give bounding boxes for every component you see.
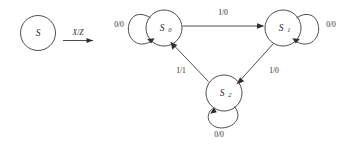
transition-s1-to-s2-group: 1/0 <box>237 44 280 85</box>
state-node-s1[interactable]: S 1 <box>265 10 301 46</box>
state-s1-label: S <box>279 23 284 33</box>
state-diagram-canvas: S X/Z 0/0 0/0 0/0 1/0 <box>0 0 349 146</box>
key-state-label: S <box>36 28 41 38</box>
self-loop-s2-label: 0/0 <box>214 130 224 139</box>
transition-s2-to-s0-label: 1/1 <box>176 66 186 75</box>
self-loop-s1-label: 0/0 <box>326 20 336 29</box>
state-s0-label: S <box>160 23 165 33</box>
transition-s2-to-s0-group: 1/1 <box>171 42 209 82</box>
state-machine-diagram: S X/Z 0/0 0/0 0/0 1/0 <box>0 0 349 146</box>
self-loop-s0-label: 0/0 <box>114 20 124 29</box>
self-loop-s2-arrowhead <box>210 107 217 114</box>
state-node-s0[interactable]: S 0 <box>146 10 182 46</box>
state-node-s2[interactable]: S 2 <box>206 75 242 111</box>
state-s0-subscript: 0 <box>168 26 172 33</box>
state-s1-subscript: 1 <box>287 26 290 33</box>
state-s2-subscript: 2 <box>228 91 232 98</box>
key-transition-label: X/Z <box>72 28 85 37</box>
transition-s0-to-s1-arrowhead <box>257 23 265 29</box>
transition-s0-to-s1-label: 1/0 <box>218 8 228 17</box>
key-transition-arrowhead <box>87 38 94 43</box>
transition-s1-to-s2-label: 1/0 <box>269 66 279 75</box>
transition-s2-to-s0-path <box>175 46 209 82</box>
notation-key-group: S X/Z <box>21 16 94 51</box>
state-s2-label: S <box>220 88 225 98</box>
transition-s0-to-s1-group: 1/0 <box>183 8 265 29</box>
